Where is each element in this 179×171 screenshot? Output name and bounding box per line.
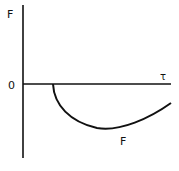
curve-label: F [120,135,126,148]
origin-label: 0 [8,79,15,92]
y-axis-label: F [7,8,13,21]
curve-f [53,84,171,129]
x-axis-label: τ [160,71,166,82]
diagram: F 0 τ F [0,0,179,171]
